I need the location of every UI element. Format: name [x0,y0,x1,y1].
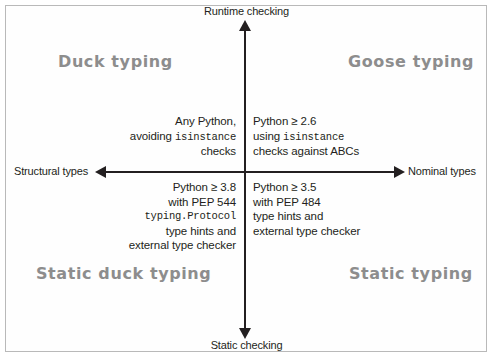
quadrant-body-line: external type checker [253,224,418,239]
quadrant-body-line: checks [100,144,236,159]
quadrant-title-static-typing: Static typing [349,264,473,283]
arrow-up-icon [239,20,251,31]
quadrant-body-duck-typing: Any Python, avoiding isinstance checks [100,114,236,159]
quadrant-body-line: external type checker [72,238,236,253]
quadrant-body-line: type hints and [72,224,236,239]
quadrant-diagram-figure: Runtime checking Static checking Structu… [0,0,493,358]
arrow-down-icon [239,328,251,339]
quadrant-body-line: Any Python, [100,114,236,129]
arrow-left-icon [95,166,106,178]
code-isinstance: isinstance [175,131,236,143]
quadrant-body-line: with PEP 484 [253,195,418,210]
quadrant-title-static-duck-typing: Static duck typing [36,264,211,283]
axis-label-static-checking: Static checking [0,339,493,351]
quadrant-body-line: Python ≥ 2.6 [253,114,418,129]
quadrant-body-static-duck-typing: Python ≥ 3.8 with PEP 544 typing.Protoco… [72,180,236,253]
quadrant-body-line: type hints and [253,209,418,224]
quadrant-body-line: avoiding isinstance [100,129,236,145]
quadrant-title-duck-typing: Duck typing [58,52,173,71]
axis-label-structural-types: Structural types [14,165,88,177]
quadrant-body-text: using [253,130,283,142]
quadrant-body-line: with PEP 544 [72,195,236,210]
horizontal-axis-line [103,171,395,173]
quadrant-title-goose-typing: Goose typing [348,52,474,71]
quadrant-body-line: Python ≥ 3.8 [72,180,236,195]
quadrant-body-text: avoiding [130,130,175,142]
axis-label-runtime-checking: Runtime checking [0,5,493,17]
vertical-axis-line [244,28,246,331]
quadrant-body-line: checks against ABCs [253,144,418,159]
quadrant-body-line: using isinstance [253,129,418,145]
arrow-right-icon [394,166,405,178]
quadrant-body-static-typing: Python ≥ 3.5 with PEP 484 type hints and… [253,180,418,238]
axis-label-nominal-types: Nominal types [408,165,476,177]
code-typing-protocol: typing.Protocol [72,209,236,224]
quadrant-body-goose-typing: Python ≥ 2.6 using isinstance checks aga… [253,114,418,159]
code-isinstance: isinstance [283,131,344,143]
quadrant-body-line: Python ≥ 3.5 [253,180,418,195]
